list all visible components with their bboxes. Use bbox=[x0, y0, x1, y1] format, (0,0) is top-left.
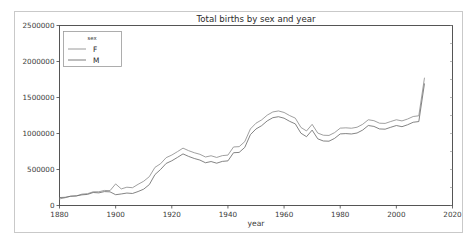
legend-title: sex bbox=[87, 35, 97, 41]
x-axis-ticks: 18801900192019401960198020002020 bbox=[50, 206, 462, 219]
legend[interactable]: sex F M bbox=[64, 32, 122, 67]
series-line-f bbox=[60, 78, 425, 199]
y-tick-label: 500000 bbox=[27, 165, 55, 174]
x-tick-label: 2000 bbox=[387, 210, 406, 219]
x-tick-label: 1940 bbox=[219, 210, 238, 219]
figure-canvas: 05000001000000150000020000002500000 1880… bbox=[0, 0, 476, 245]
chart-plot-area: 05000001000000150000020000002500000 1880… bbox=[0, 0, 476, 245]
x-tick-label: 1880 bbox=[50, 210, 69, 219]
x-axis-label: year bbox=[248, 219, 266, 228]
legend-label-f: F bbox=[93, 45, 97, 54]
x-tick-label: 2020 bbox=[443, 210, 462, 219]
series-line-m bbox=[60, 84, 425, 198]
x-tick-label: 1980 bbox=[331, 210, 350, 219]
series-lines bbox=[60, 78, 425, 199]
x-tick-label: 1960 bbox=[275, 210, 294, 219]
page-title: Total births by sex and year bbox=[196, 14, 316, 24]
y-tick-label: 1000000 bbox=[22, 129, 54, 138]
x-tick-label: 1900 bbox=[106, 210, 125, 219]
y-tick-label: 2500000 bbox=[22, 21, 54, 30]
x-tick-label: 1920 bbox=[163, 210, 182, 219]
y-tick-label: 1500000 bbox=[22, 93, 54, 102]
y-tick-label: 2000000 bbox=[22, 57, 54, 66]
legend-label-m: M bbox=[93, 56, 99, 65]
